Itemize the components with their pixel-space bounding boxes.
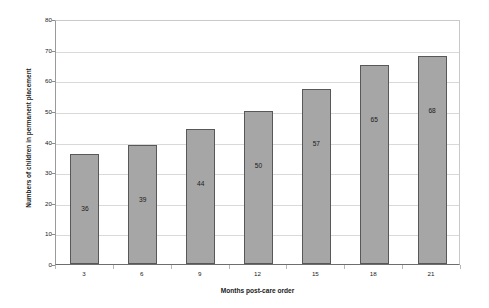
x-tick-mark: [460, 265, 461, 269]
bar-value-label: 68: [418, 108, 447, 115]
plot-area: 36394450576568: [55, 20, 460, 265]
bar[interactable]: [186, 129, 215, 264]
x-tick-mark: [229, 265, 230, 269]
bars-layer: 36394450576568: [56, 21, 459, 264]
x-tick-mark: [286, 265, 287, 269]
y-tick-label: 20: [26, 201, 52, 207]
bar-value-label: 36: [70, 206, 99, 213]
bar-value-label: 44: [186, 181, 215, 188]
bar[interactable]: [128, 145, 157, 264]
x-tick-label: 21: [411, 271, 451, 277]
x-tick-mark: [113, 265, 114, 269]
y-tick-label: 60: [26, 78, 52, 84]
bar[interactable]: [418, 56, 447, 264]
bar-value-label: 65: [360, 117, 389, 124]
bar[interactable]: [302, 89, 331, 264]
x-tick-label: 12: [238, 271, 278, 277]
y-tick-label: 50: [26, 109, 52, 115]
x-tick-mark: [402, 265, 403, 269]
x-tick-mark: [55, 265, 56, 269]
y-tick-label: 30: [26, 170, 52, 176]
x-tick-label: 6: [122, 271, 162, 277]
y-tick-label: 40: [26, 140, 52, 146]
bar-value-label: 39: [128, 197, 157, 204]
x-axis-title: Months post-care order: [55, 288, 460, 295]
x-tick-label: 15: [295, 271, 335, 277]
x-tick-mark: [171, 265, 172, 269]
bar-value-label: 50: [244, 163, 273, 170]
y-tick-label: 0: [26, 262, 52, 268]
y-tick-label: 80: [26, 17, 52, 23]
x-tick-mark: [344, 265, 345, 269]
bar-value-label: 57: [302, 141, 331, 148]
bar[interactable]: [360, 65, 389, 264]
x-tick-label: 9: [180, 271, 220, 277]
y-tick-label: 10: [26, 231, 52, 237]
x-tick-label: 18: [353, 271, 393, 277]
x-tick-label: 3: [64, 271, 104, 277]
y-tick-label: 70: [26, 48, 52, 54]
bar-chart: Numbers of children in permanent placeme…: [0, 0, 489, 308]
bar[interactable]: [244, 111, 273, 264]
